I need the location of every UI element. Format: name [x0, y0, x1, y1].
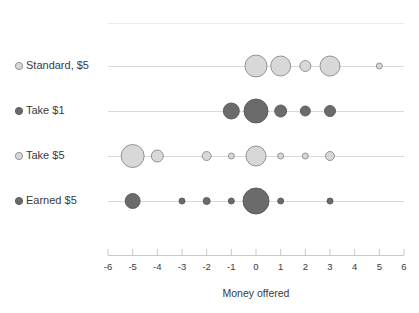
- bubble-take-1-x3: [325, 106, 336, 117]
- x-axis-tick-labels: -6-5-4-3-2-10123456: [104, 261, 407, 272]
- x-axis-tick-marks: [108, 249, 404, 256]
- bubble-take-5-xneg4: [151, 150, 163, 162]
- bubble-earned-5-xneg2: [203, 198, 210, 205]
- bubble-earned-5-xneg3: [179, 198, 185, 204]
- bubble-standard-5-x1: [271, 56, 291, 76]
- bubble-earned-5-x1: [278, 198, 284, 204]
- row-label-group: Standard, $5Take $1Take $5Earned $5: [26, 59, 89, 206]
- tick-label-neg6: -6: [104, 261, 112, 272]
- bubble-take-1-x1: [275, 105, 287, 117]
- row-baselines: [108, 67, 404, 202]
- bubble-take-1-xneg1: [223, 103, 239, 119]
- bubble-take-5-xneg1: [228, 153, 234, 159]
- x-axis: -6-5-4-3-2-10123456: [104, 249, 407, 272]
- tick-label-6: 6: [401, 261, 406, 272]
- tick-label-0: 0: [253, 261, 258, 272]
- bubble-take-1-x0: [244, 99, 268, 123]
- tick-label-neg2: -2: [202, 261, 210, 272]
- legend-marker-earned-5: [15, 197, 22, 204]
- row-label-take-1: Take $1: [26, 104, 65, 116]
- tick-label-5: 5: [377, 261, 382, 272]
- bubble-take-5-x1: [278, 153, 284, 159]
- bubble-chart: Standard, $5Take $1Take $5Earned $5 -6-5…: [0, 0, 419, 313]
- row-label-standard-5: Standard, $5: [26, 59, 89, 71]
- bubble-standard-5-x0: [245, 55, 267, 77]
- bubble-earned-5-x3: [327, 198, 333, 204]
- bubble-take-5-xneg5: [121, 145, 144, 168]
- tick-label-neg5: -5: [128, 261, 136, 272]
- bubble-standard-5-x3: [320, 56, 340, 76]
- legend-marker-take-5: [15, 152, 22, 159]
- bubble-earned-5-xneg1: [228, 198, 234, 204]
- bubble-earned-5-xneg5: [125, 194, 140, 209]
- bubble-standard-5-x2: [300, 61, 311, 72]
- row-legend-markers: [15, 62, 22, 204]
- tick-label-1: 1: [278, 261, 283, 272]
- row-label-earned-5: Earned $5: [26, 194, 77, 206]
- bubble-standard-5-x5: [376, 63, 382, 69]
- bubble-take-5-xneg2: [202, 152, 211, 161]
- bubble-group: [121, 55, 382, 214]
- legend-marker-standard-5: [15, 62, 22, 69]
- tick-label-3: 3: [327, 261, 332, 272]
- legend-marker-take-1: [15, 107, 22, 114]
- bubble-take-5-x3: [326, 152, 335, 161]
- tick-label-neg3: -3: [178, 261, 186, 272]
- tick-label-4: 4: [352, 261, 357, 272]
- tick-label-neg4: -4: [153, 261, 161, 272]
- bubble-earned-5-x0: [243, 188, 269, 214]
- x-axis-title: Money offered: [223, 287, 290, 299]
- row-label-take-5: Take $5: [26, 149, 65, 161]
- bubble-take-5-x2: [302, 153, 308, 159]
- tick-label-neg1: -1: [227, 261, 235, 272]
- bubble-take-5-x0: [246, 146, 266, 166]
- bubble-take-1-x2: [300, 106, 310, 116]
- chart-canvas: Standard, $5Take $1Take $5Earned $5 -6-5…: [0, 0, 419, 313]
- tick-label-2: 2: [303, 261, 308, 272]
